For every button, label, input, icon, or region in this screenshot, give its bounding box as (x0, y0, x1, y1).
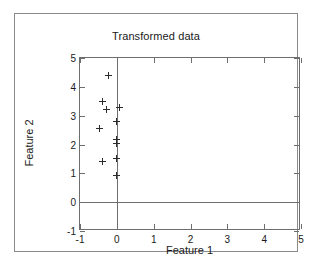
figure-frame: Transformed data -1012345-1012345 Featur… (14, 13, 298, 252)
data-point-marker (113, 140, 120, 147)
x-tick-mark (80, 224, 81, 229)
x-tick-mark (191, 224, 192, 229)
y-tick-mark-right (294, 116, 299, 117)
data-point-marker (99, 158, 106, 165)
x-tick-mark (227, 224, 228, 229)
zero-horizontal-line (80, 202, 299, 203)
x-tick-mark-top (264, 58, 265, 63)
data-point-marker (105, 72, 112, 79)
data-point-marker (113, 155, 120, 162)
data-point-marker (96, 125, 103, 132)
y-tick-label: 0 (70, 197, 76, 208)
x-tick-mark (117, 224, 118, 229)
x-tick-mark-top (191, 58, 192, 63)
plot-axes-area: -1012345-1012345 (79, 57, 300, 230)
x-tick-mark-top (154, 58, 155, 63)
y-tick-mark (80, 173, 85, 174)
data-point-marker (103, 106, 110, 113)
y-tick-label: -1 (67, 226, 76, 237)
y-tick-mark-right (294, 173, 299, 174)
data-point-marker (116, 104, 123, 111)
x-tick-mark (301, 224, 302, 229)
y-tick-label: 4 (70, 81, 76, 92)
x-tick-mark-top (227, 58, 228, 63)
y-tick-mark (80, 202, 85, 203)
y-tick-label: 5 (70, 53, 76, 64)
y-tick-mark (80, 87, 85, 88)
y-tick-mark-right (294, 202, 299, 203)
y-tick-label: 2 (70, 139, 76, 150)
y-tick-label: 1 (70, 168, 76, 179)
data-point-marker (113, 118, 120, 125)
y-tick-mark (80, 231, 85, 232)
y-tick-mark-right (294, 87, 299, 88)
y-axis-title: Feature 2 (23, 119, 35, 166)
y-tick-mark-right (294, 145, 299, 146)
y-tick-mark (80, 58, 85, 59)
y-tick-label: 3 (70, 110, 76, 121)
x-tick-mark-top (301, 58, 302, 63)
y-tick-mark (80, 116, 85, 117)
y-tick-mark (80, 145, 85, 146)
y-tick-mark-right (294, 231, 299, 232)
chart-title: Transformed data (15, 30, 297, 42)
x-tick-mark (154, 224, 155, 229)
y-tick-mark-right (294, 58, 299, 59)
x-tick-mark-top (117, 58, 118, 63)
data-point-marker (113, 172, 120, 179)
x-tick-mark (264, 224, 265, 229)
x-axis-title: Feature 1 (79, 244, 300, 256)
data-point-marker (99, 98, 106, 105)
